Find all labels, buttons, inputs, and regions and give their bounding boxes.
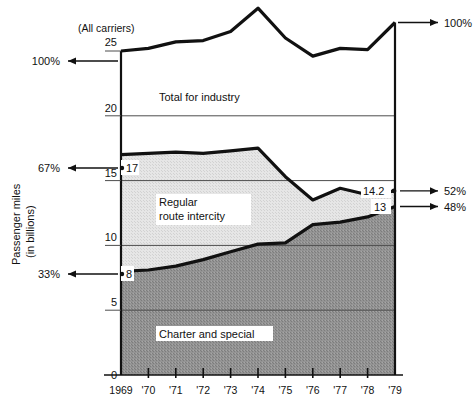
ytick-label-15: 15 <box>105 167 117 179</box>
band-label-intercity-line1: Regular <box>159 196 198 208</box>
left-annotation-67: 67% 17 <box>38 160 139 175</box>
right-value-dot-142 <box>392 189 397 194</box>
right-value-13: 13 <box>374 201 386 213</box>
xtick-label-79: '79 <box>388 384 402 396</box>
band-label-intercity-line2: route intercity <box>159 210 226 222</box>
all-carriers-note: (All carriers) <box>78 22 135 34</box>
band-label-charter-and-special: Charter and special <box>156 326 273 341</box>
y-axis-title: Passenger miles (in billions) <box>10 183 36 265</box>
xtick-label-1969: 1969 <box>109 384 133 396</box>
ytick-label-0: 0 <box>111 369 117 381</box>
y-axis: 25 20 15 10 5 0 <box>105 36 121 381</box>
right-percent-52: 52% <box>444 185 466 197</box>
right-annotation-100: 100% <box>398 17 472 29</box>
left-value-17: 17 <box>126 162 138 174</box>
xtick-label-70: '70 <box>142 384 156 396</box>
band-label-total-text: Total for industry <box>159 91 240 103</box>
chart-svg: 25 20 15 10 5 0 1969 '70 '71 '72 <box>0 0 473 413</box>
xtick-label-75: '75 <box>279 384 293 396</box>
plot-area <box>104 8 403 375</box>
left-percent-67: 67% <box>38 162 60 174</box>
left-percent-33: 33% <box>38 268 60 280</box>
ytick-label-20: 20 <box>105 102 117 114</box>
xtick-label-76: '76 <box>306 384 320 396</box>
right-percent-48: 48% <box>444 201 466 213</box>
band-label-charter-text: Charter and special <box>159 328 254 340</box>
right-percent-100: 100% <box>444 17 472 29</box>
left-value-dot-17 <box>120 166 124 170</box>
xtick-label-71: '71 <box>169 384 183 396</box>
line-total-for-industry <box>121 8 395 56</box>
left-annotation-100: 100% <box>32 55 118 67</box>
xtick-label-77: '77 <box>333 384 347 396</box>
left-value-8: 8 <box>126 268 132 280</box>
ytick-label-25: 25 <box>105 36 117 48</box>
xtick-label-73: '73 <box>224 384 238 396</box>
ytick-label-10: 10 <box>105 231 117 243</box>
xtick-label-78: '78 <box>361 384 375 396</box>
band-label-regular-route-intercity: Regular route intercity <box>156 194 251 225</box>
band-label-total-for-industry: Total for industry <box>156 89 263 104</box>
right-annotation-52: 52% 14.2 <box>361 183 466 198</box>
right-annotation-48: 48% 13 <box>371 199 466 214</box>
y-axis-title-line1: Passenger miles <box>10 183 22 265</box>
ytick-label-5: 5 <box>111 296 117 308</box>
xtick-label-72: '72 <box>196 384 210 396</box>
right-value-14-2: 14.2 <box>363 185 384 197</box>
xtick-label-74: '74 <box>251 384 265 396</box>
left-annotation-33: 33% 8 <box>38 266 134 281</box>
left-percent-100: 100% <box>32 55 60 67</box>
left-value-dot-8 <box>120 272 124 276</box>
area-chart: 25 20 15 10 5 0 1969 '70 '71 '72 <box>0 0 473 413</box>
y-axis-title-line2: (in billions) <box>24 205 36 258</box>
